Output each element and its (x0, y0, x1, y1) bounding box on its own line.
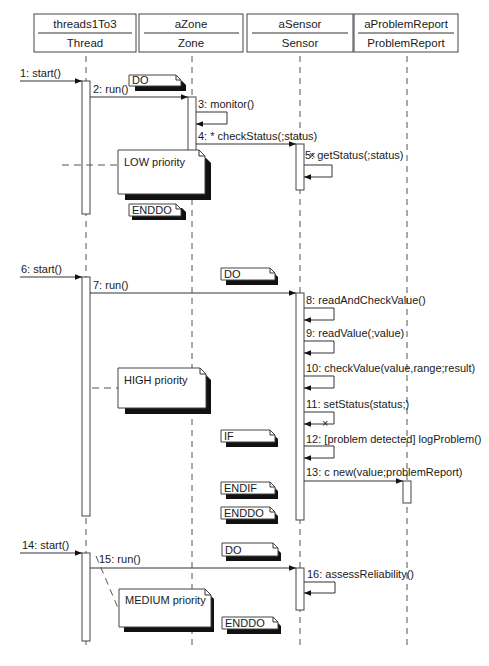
note-do-1: DO (129, 74, 186, 91)
lifeline-header-aZone[interactable]: aZone Zone (139, 14, 243, 52)
note-label: ENDDO (224, 507, 264, 519)
note-label: IF (224, 430, 234, 442)
message-arrow-8[interactable] (304, 308, 334, 320)
activation-sensor-1 (296, 144, 304, 190)
class-name: Sensor (282, 37, 319, 49)
message-label-9: 9: readValue(;value) (306, 327, 404, 339)
object-name: aZone (175, 18, 208, 30)
note-label: ENDIF (224, 482, 257, 494)
message-label-16: 16: assessReliability() (307, 568, 414, 580)
object-name: aProblemReport (364, 18, 449, 30)
note-label: ENDDO (225, 617, 265, 629)
note-label: DO (132, 74, 149, 86)
object-name: aSensor (279, 18, 322, 30)
note-medium-priority: MEDIUM priority (96, 556, 214, 632)
activation-thread-2 (82, 277, 90, 516)
note-label: MEDIUM priority (125, 594, 206, 606)
message-arrow-12[interactable] (304, 446, 334, 458)
note-endif: ENDIF (221, 482, 278, 499)
message-arrow-3[interactable] (196, 112, 227, 124)
lifeline-header-aProblemReport[interactable]: aProblemReport ProblemReport (354, 14, 458, 52)
message-label-15: 15: run() (99, 553, 141, 565)
return-cross-icon: × (322, 417, 328, 429)
message-label-8: 8: readAndCheckValue() (306, 294, 426, 306)
class-name: Zone (178, 37, 204, 49)
object-name: threads1To3 (53, 18, 116, 30)
note-do-2: DO (221, 268, 278, 285)
note-if: IF (221, 430, 278, 447)
sequence-diagram: threads1To3 Thread aZone Zone aSensor Se… (0, 0, 489, 666)
message-label-14: 14: start() (22, 539, 69, 551)
class-name: Thread (67, 37, 103, 49)
activation-sensor-3 (296, 568, 304, 610)
message-label-1: 1: start() (20, 67, 61, 79)
message-label-13: 13: c new(value;problemReport) (306, 466, 463, 478)
message-label-12: 12: [problem detected] logProblem() (306, 433, 481, 445)
activation-problemreport (403, 481, 411, 503)
class-name: ProblemReport (367, 37, 445, 49)
note-enddo-3: ENDDO (222, 617, 281, 634)
note-high-priority: HIGH priority (92, 368, 211, 414)
message-arrow-11[interactable] (304, 412, 334, 424)
note-label: LOW priority (124, 156, 186, 168)
message-label-2: 2: run() (93, 83, 128, 95)
activation-thread-3 (82, 553, 90, 641)
note-do-3: DO (222, 543, 281, 561)
note-label: DO (224, 268, 241, 280)
message-label-11: 11: setStatus(status;) (306, 398, 409, 410)
note-label: DO (225, 544, 242, 556)
note-enddo-2: ENDDO (221, 507, 278, 524)
message-label-7: 7: run() (93, 279, 128, 291)
message-label-4: 4: * checkStatus(;status) (198, 130, 317, 142)
note-label: HIGH priority (124, 374, 188, 386)
lifeline-header-aSensor[interactable]: aSensor Sensor (247, 14, 353, 52)
note-enddo-1: ENDDO (129, 204, 186, 220)
note-label: ENDDO (132, 204, 172, 216)
message-arrow-10[interactable] (304, 376, 334, 388)
activation-thread-1 (82, 81, 90, 214)
activation-sensor-2 (296, 293, 304, 520)
lifeline-header-threads1To3[interactable]: threads1To3 Thread (34, 14, 136, 52)
message-arrow-16[interactable] (304, 582, 335, 593)
message-label-3: 3: monitor() (198, 98, 254, 110)
message-label-5: 5: getStatus(;status) (305, 149, 403, 161)
message-label-10: 10: checkValue(value,range;result) (306, 362, 475, 374)
message-arrow-5[interactable] (304, 165, 332, 177)
message-label-6: 6: start() (21, 263, 62, 275)
message-arrow-9[interactable] (304, 341, 334, 353)
activation-zone-1 (188, 97, 196, 153)
